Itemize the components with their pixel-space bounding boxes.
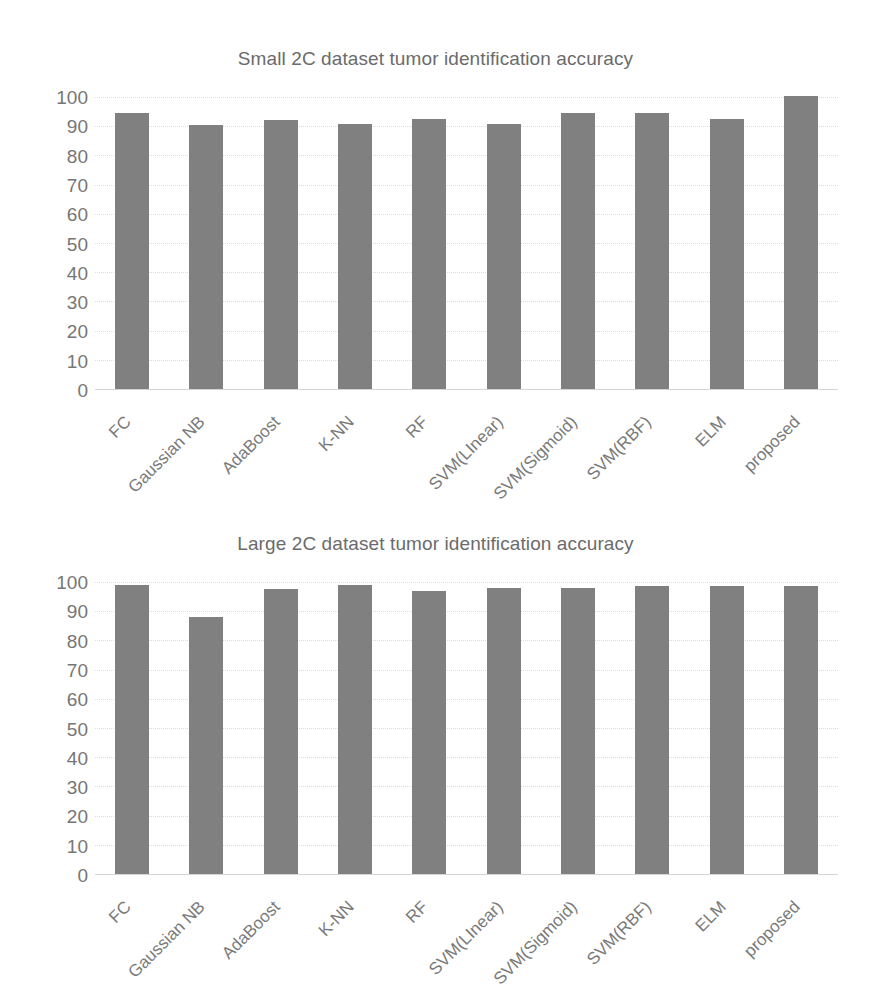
bar-slot [764,582,838,874]
bar-slot [615,97,689,389]
bar [561,113,595,389]
bar [115,585,149,874]
y-tick-label: 10 [67,836,88,855]
y-tick-label: 100 [56,573,88,592]
x-tick-label: ELM [692,413,729,450]
y-tick-label: 50 [67,719,88,738]
bar-slot [392,582,466,874]
y-tick-label: 60 [67,205,88,224]
y-tick-label: 90 [67,117,88,136]
bar-slot [95,97,169,389]
bar-slot [169,97,243,389]
bar-slot [169,582,243,874]
x-tick-label: K-NN [316,898,357,939]
x-label-slot: K-NN [318,407,392,527]
bar [710,119,744,389]
y-tick-label: 0 [77,866,88,885]
y-tick-label: 20 [67,807,88,826]
x-tick-label: RF [403,898,431,926]
y-axis-labels-small-2c: 1009080706050403020100 [0,97,88,390]
bar-slot [764,97,838,389]
x-tick-label: RF [403,413,431,441]
bar-slot [244,582,318,874]
x-tick-label: K-NN [316,413,357,454]
chart-title-large-2c: Large 2C dataset tumor identification ac… [0,515,871,555]
y-tick-label: 30 [67,293,88,312]
y-tick-label: 70 [67,660,88,679]
y-tick-label: 80 [67,631,88,650]
bar [635,586,669,874]
bar [338,585,372,874]
x-label-slot: SVM(RBF) [615,407,689,527]
x-tick-label: ELM [692,898,729,935]
plot-area-large-2c [95,582,838,875]
x-label-slot: proposed [764,407,838,527]
bar [189,125,223,389]
x-label-slot: K-NN [318,892,392,1000]
y-tick-label: 40 [67,748,88,767]
bar [487,588,521,874]
plot-wrap-small-2c: 1009080706050403020100 FCGaussian NBAdaB… [0,88,871,398]
bar-slot [466,97,540,389]
y-tick-label: 20 [67,322,88,341]
y-tick-label: 100 [56,88,88,107]
bar-slot [466,582,540,874]
bar-slot [244,97,318,389]
plot-wrap-large-2c: 1009080706050403020100 FCGaussian NBAdaB… [0,573,871,883]
bar [710,586,744,874]
plot-area-small-2c [95,97,838,390]
y-tick-label: 0 [77,381,88,400]
y-tick-label: 30 [67,778,88,797]
bar-slot [541,97,615,389]
bar [338,124,372,389]
y-tick-label: 70 [67,175,88,194]
bar [189,617,223,874]
bar [784,96,818,389]
x-label-slot: AdaBoost [244,407,318,527]
x-tick-label: FC [106,898,134,926]
bar [264,589,298,874]
x-axis-labels-large-2c: FCGaussian NBAdaBoostK-NNRFSVM(LInear)SV… [95,892,838,1000]
bar-series-large-2c [95,582,838,874]
x-label-slot: AdaBoost [244,892,318,1000]
bar-slot [615,582,689,874]
bar [115,113,149,389]
bar-slot [689,582,763,874]
bar-series-small-2c [95,97,838,389]
bar [412,591,446,874]
bar [635,113,669,389]
x-tick-label: FC [106,413,134,441]
x-label-slot: proposed [764,892,838,1000]
chart-title-small-2c: Small 2C dataset tumor identification ac… [0,0,871,70]
bar [412,119,446,389]
bar [561,588,595,874]
chart-page: { "chart_data": [ { "type": "bar", "titl… [0,0,871,1000]
chart-large-2c: Large 2C dataset tumor identification ac… [0,515,871,1000]
bar-slot [541,582,615,874]
y-tick-label: 40 [67,263,88,282]
y-tick-label: 60 [67,690,88,709]
y-tick-label: 10 [67,351,88,370]
bar-slot [392,97,466,389]
y-tick-label: 80 [67,146,88,165]
bar-slot [689,97,763,389]
chart-small-2c: Small 2C dataset tumor identification ac… [0,0,871,515]
bar-slot [318,582,392,874]
x-label-slot: SVM(RBF) [615,892,689,1000]
bar-slot [95,582,169,874]
y-tick-label: 50 [67,234,88,253]
y-axis-labels-large-2c: 1009080706050403020100 [0,582,88,875]
bar [487,124,521,389]
bar-slot [318,97,392,389]
y-tick-label: 90 [67,602,88,621]
bar [784,586,818,874]
bar [264,120,298,389]
x-axis-labels-small-2c: FCGaussian NBAdaBoostK-NNRFSVM(LInear)SV… [95,407,838,527]
